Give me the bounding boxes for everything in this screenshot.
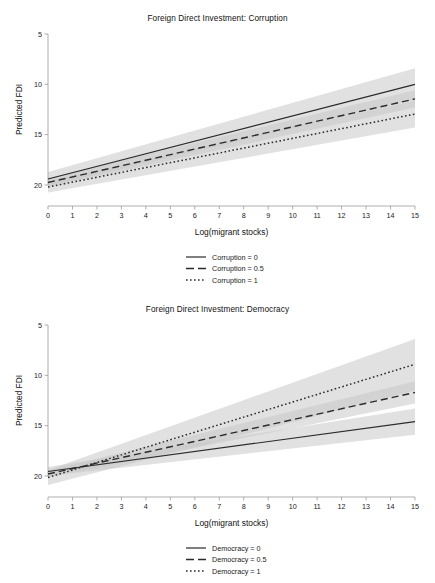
confidence-band-2: [48, 100, 415, 192]
x-tick-label: 6: [193, 502, 197, 511]
x-tick-label: 8: [242, 502, 246, 511]
y-tick-label: 15: [34, 130, 42, 139]
legend-label: Democracy = 0: [212, 544, 261, 553]
x-tick-label: 7: [217, 502, 221, 511]
x-tick-label: 9: [266, 211, 270, 220]
x-tick-label: 15: [411, 211, 419, 220]
y-axis-title: Predicted FDI: [14, 84, 24, 135]
plot-area-democracy: 20151050123456789101112131415Log(migrant…: [0, 291, 435, 582]
x-tick-label: 11: [313, 502, 320, 511]
y-axis-title: Predicted FDI: [14, 375, 24, 426]
chart-panel-democracy: Foreign Direct Investment: Democracy 201…: [0, 291, 435, 582]
x-tick-label: 0: [46, 211, 50, 220]
x-tick-label: 4: [144, 502, 148, 511]
legend-label: Corruption = 1: [212, 276, 258, 285]
x-axis-title: Log(migrant stocks): [195, 227, 269, 237]
x-tick-label: 10: [289, 502, 297, 511]
plot-area-corruption: 20151050123456789101112131415Log(migrant…: [0, 0, 435, 291]
legend-item[interactable]: Corruption = 0.5: [186, 264, 264, 273]
legend-item[interactable]: Corruption = 0: [186, 253, 258, 262]
legend-label: Democracy = 0.5: [212, 555, 267, 564]
y-tick-label: 15: [34, 421, 42, 430]
x-tick-label: 3: [119, 211, 123, 220]
x-tick-label: 6: [193, 211, 197, 220]
legend-item[interactable]: Corruption = 1: [186, 276, 258, 285]
confidence-band-area: [48, 100, 415, 192]
x-tick-label: 5: [168, 502, 172, 511]
legend-label: Corruption = 0.5: [212, 264, 264, 273]
x-tick-label: 13: [362, 211, 370, 220]
y-tick-label: 20: [34, 181, 42, 190]
chart-panel-corruption: Foreign Direct Investment: Corruption 20…: [0, 0, 435, 291]
x-tick-label: 12: [338, 502, 346, 511]
legend-item[interactable]: Democracy = 0.5: [186, 555, 267, 564]
x-axis-title: Log(migrant stocks): [195, 518, 269, 528]
x-tick-label: 12: [338, 211, 346, 220]
y-tick-label: 20: [34, 472, 42, 481]
legend-item[interactable]: Democracy = 1: [186, 567, 261, 576]
x-tick-label: 7: [217, 211, 221, 220]
x-tick-label: 0: [46, 502, 50, 511]
x-tick-label: 1: [70, 211, 74, 220]
x-tick-label: 1: [70, 502, 74, 511]
legend-label: Democracy = 1: [212, 567, 261, 576]
x-tick-label: 10: [289, 211, 297, 220]
series-line-1: [48, 99, 415, 183]
x-tick-label: 9: [266, 502, 270, 511]
x-tick-label: 3: [119, 502, 123, 511]
y-tick-label: 5: [38, 321, 42, 330]
x-tick-label: 15: [411, 502, 419, 511]
x-tick-label: 4: [144, 211, 148, 220]
legend-label: Corruption = 0: [212, 253, 258, 262]
x-tick-label: 5: [168, 211, 172, 220]
y-tick-label: 10: [34, 371, 42, 380]
x-tick-label: 2: [95, 211, 99, 220]
x-tick-label: 13: [362, 502, 370, 511]
x-tick-label: 2: [95, 502, 99, 511]
y-tick-label: 10: [34, 80, 42, 89]
figure-page: Foreign Direct Investment: Corruption 20…: [0, 0, 435, 583]
x-tick-label: 14: [387, 211, 395, 220]
x-tick-label: 8: [242, 211, 246, 220]
x-tick-label: 11: [313, 211, 320, 220]
legend-item[interactable]: Democracy = 0: [186, 544, 261, 553]
x-tick-label: 14: [387, 502, 395, 511]
y-tick-label: 5: [38, 30, 42, 39]
